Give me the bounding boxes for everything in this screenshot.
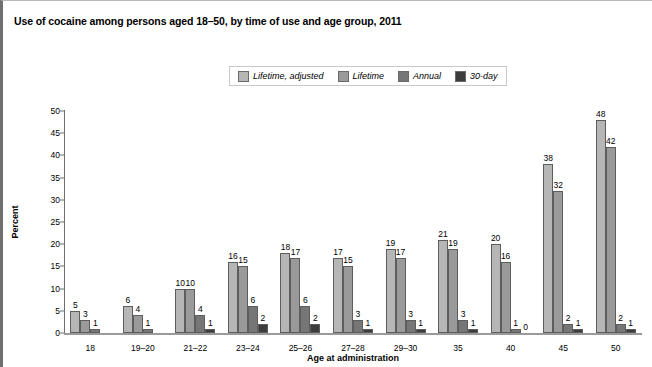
bar-value-label: 1 xyxy=(93,318,98,328)
legend-swatch-icon xyxy=(398,71,409,82)
bar-value-label: 2 xyxy=(261,313,266,323)
bar-slot: 17 xyxy=(333,111,343,333)
bar[interactable] xyxy=(175,289,185,333)
bar[interactable] xyxy=(396,258,406,333)
bar[interactable] xyxy=(205,329,215,333)
y-axis-tick-label: 35 xyxy=(38,173,60,183)
bar-slot: 16 xyxy=(501,111,511,333)
bar-value-label: 6 xyxy=(303,295,308,305)
bar[interactable] xyxy=(195,315,205,333)
bar-slot: 6 xyxy=(123,111,133,333)
bar-slot: 15 xyxy=(343,111,353,333)
bar-value-label: 5 xyxy=(73,300,78,310)
bar-value-label: 1 xyxy=(513,318,518,328)
bar[interactable] xyxy=(343,266,353,333)
bar-value-label: 21 xyxy=(438,229,447,239)
plot-area: 0510152025303540455053164110104116156218… xyxy=(64,111,642,333)
bar-slot: 3 xyxy=(406,111,416,333)
bar-group: 191731 xyxy=(379,111,432,333)
bar-value-label: 1 xyxy=(628,318,633,328)
bar-value-label: 17 xyxy=(333,247,342,257)
x-axis-tick-label: 27–28 xyxy=(341,343,365,353)
bar[interactable] xyxy=(491,244,501,333)
x-axis-tick-label: 23–24 xyxy=(236,343,260,353)
bar[interactable] xyxy=(185,289,195,333)
bar-value-label: 0 xyxy=(523,322,528,332)
bar[interactable] xyxy=(386,249,396,333)
bar-value-label: 4 xyxy=(135,304,140,314)
bar-value-label: 32 xyxy=(553,180,562,190)
bar-value-label: 17 xyxy=(396,247,405,257)
bar[interactable] xyxy=(228,262,238,333)
bar[interactable] xyxy=(90,329,100,333)
bar[interactable] xyxy=(133,315,143,333)
bar[interactable] xyxy=(300,306,310,333)
x-axis-tick-label: 35 xyxy=(453,343,462,353)
bar[interactable] xyxy=(80,320,90,333)
bar-slot: 16 xyxy=(228,111,238,333)
bar[interactable] xyxy=(468,329,478,333)
bar[interactable] xyxy=(363,329,373,333)
legend-item[interactable]: 30-day xyxy=(455,71,498,82)
bar-value-label: 16 xyxy=(228,251,237,261)
bar[interactable] xyxy=(290,258,300,333)
legend-item[interactable]: Lifetime, adjusted xyxy=(238,71,324,82)
bar-group: 161562 xyxy=(222,111,275,333)
x-axis-tick-label: 40 xyxy=(506,343,515,353)
x-axis-line xyxy=(64,333,642,335)
legend-item[interactable]: Lifetime xyxy=(338,71,385,82)
bar-group: 531 xyxy=(64,111,117,333)
bar[interactable] xyxy=(563,324,573,333)
bar-group: 101041 xyxy=(169,111,222,333)
bar-value-label: 1 xyxy=(208,318,213,328)
bar[interactable] xyxy=(70,311,80,333)
bar-value-label: 16 xyxy=(501,251,510,261)
bar[interactable] xyxy=(280,253,290,333)
bar[interactable] xyxy=(438,240,448,333)
bar[interactable] xyxy=(353,320,363,333)
bar[interactable] xyxy=(501,262,511,333)
bar[interactable] xyxy=(616,324,626,333)
bar[interactable] xyxy=(416,329,426,333)
bar-slot: 1 xyxy=(416,111,426,333)
bar-group: 201610 xyxy=(484,111,537,333)
bar-group: 181762 xyxy=(274,111,327,333)
bar-group: 484221 xyxy=(589,111,642,333)
bar[interactable] xyxy=(458,320,468,333)
bar[interactable] xyxy=(406,320,416,333)
bar-slot xyxy=(100,111,110,333)
x-axis-tick-label: 25–26 xyxy=(289,343,313,353)
bar-slot: 6 xyxy=(300,111,310,333)
legend-swatch-icon xyxy=(338,71,349,82)
bar[interactable] xyxy=(333,258,343,333)
bar-value-label: 15 xyxy=(343,255,352,265)
bar-value-label: 19 xyxy=(448,238,457,248)
bar[interactable] xyxy=(573,329,583,333)
bar[interactable] xyxy=(143,329,153,333)
bar-slot: 4 xyxy=(133,111,143,333)
bar-group-bars: 171531 xyxy=(327,111,380,333)
bar-slot: 1 xyxy=(511,111,521,333)
bar[interactable] xyxy=(238,266,248,333)
bar[interactable] xyxy=(448,249,458,333)
legend-item[interactable]: Annual xyxy=(398,71,441,82)
bar-group-bars: 191731 xyxy=(379,111,432,333)
bar-slot: 6 xyxy=(248,111,258,333)
bar[interactable] xyxy=(606,147,616,333)
bar[interactable] xyxy=(248,306,258,333)
bar[interactable] xyxy=(123,306,133,333)
bar[interactable] xyxy=(511,329,521,333)
bar[interactable] xyxy=(258,324,268,333)
bar[interactable] xyxy=(553,191,563,333)
bar-value-label: 10 xyxy=(186,278,195,288)
bar-slot: 10 xyxy=(175,111,185,333)
bar-value-label: 2 xyxy=(618,313,623,323)
bar[interactable] xyxy=(543,164,553,333)
bar-value-label: 1 xyxy=(418,318,423,328)
bar[interactable] xyxy=(596,120,606,333)
bar[interactable] xyxy=(626,329,636,333)
bar-value-label: 1 xyxy=(471,318,476,328)
bar[interactable] xyxy=(310,324,320,333)
legend-label: 30-day xyxy=(470,71,498,81)
bar-value-label: 4 xyxy=(198,304,203,314)
